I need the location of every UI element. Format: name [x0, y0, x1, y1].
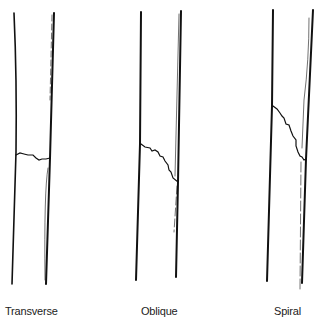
spiral-inner-line-bottom — [300, 162, 301, 290]
spiral-right-cortex — [302, 10, 313, 283]
transverse-right-cortex — [46, 13, 54, 284]
transverse-bone — [12, 13, 54, 284]
spiral-bone — [267, 10, 313, 290]
oblique-fracture-line — [141, 144, 178, 182]
spiral-fracture-line — [273, 106, 306, 160]
oblique-left-cortex — [136, 12, 141, 280]
transverse-fracture-line — [16, 153, 50, 160]
oblique-bone — [136, 11, 181, 280]
spiral-left-cortex — [267, 10, 273, 281]
label-oblique: Oblique — [141, 305, 178, 317]
label-transverse: Transverse — [5, 305, 58, 317]
oblique-right-cortex — [176, 11, 181, 277]
fracture-diagram — [0, 0, 319, 323]
transverse-left-cortex — [12, 13, 16, 284]
label-spiral: Spiral — [274, 305, 301, 317]
